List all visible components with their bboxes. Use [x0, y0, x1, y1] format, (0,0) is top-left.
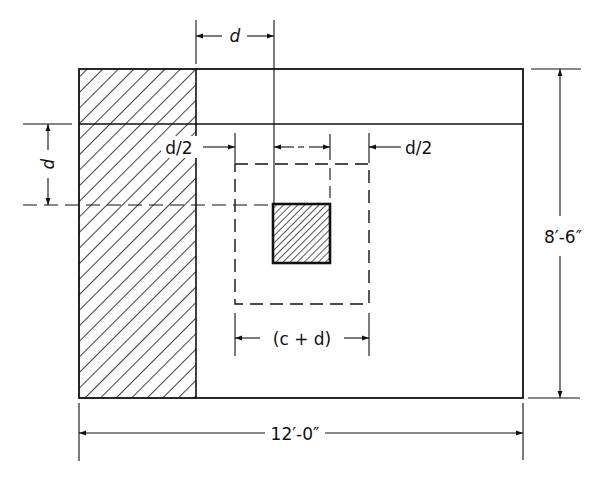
width-label: 12′-0″ — [271, 424, 320, 444]
hatched-strip — [79, 69, 196, 398]
right-half-d-label: d/2 — [405, 138, 432, 158]
footing-diagram: d d d/2 d/2 (c + d) — [0, 0, 601, 483]
right-half-d-dimension: d/2 — [369, 133, 432, 163]
c-plus-d-label: (c + d) — [273, 329, 331, 349]
interior-half-d-dimension — [274, 134, 330, 204]
top-d-dimension: d — [196, 26, 274, 46]
left-half-d-label: d/2 — [165, 138, 192, 158]
width-dimension: 12′-0″ — [79, 403, 523, 461]
column — [273, 204, 330, 263]
c-plus-d-dimension: (c + d) — [235, 313, 369, 356]
height-dimension: 8′-6″ — [528, 69, 582, 398]
height-label: 8′-6″ — [544, 227, 582, 247]
left-d-label: d — [38, 158, 58, 169]
top-d-label: d — [230, 26, 241, 46]
left-d-dimension: d — [23, 124, 72, 205]
